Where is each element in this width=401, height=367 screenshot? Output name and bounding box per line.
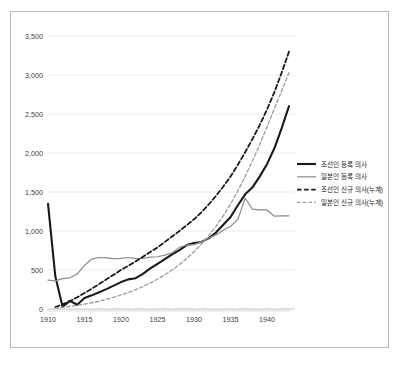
y-tick-label: 2,500 — [25, 110, 43, 119]
y-tick-label: 1,500 — [25, 188, 43, 197]
legend-label-2: 조선인 신규 의사(누계) — [321, 185, 383, 194]
y-tick-label: 500 — [31, 266, 43, 275]
figure-container: 05001,0001,5002,0002,5003,0003,500 19101… — [0, 0, 401, 367]
y-tick-label: 3,500 — [25, 32, 43, 41]
x-tick-label: 1910 — [40, 315, 56, 324]
gridlines-group — [48, 36, 295, 309]
y-axis-tick-labels: 05001,0001,5002,0002,5003,0003,500 — [25, 32, 43, 314]
y-tick-label: 2,000 — [25, 149, 43, 158]
series-line-0 — [48, 106, 289, 306]
legend-label-0: 조선인 등록 의사 — [321, 160, 367, 169]
series-line-2 — [55, 52, 289, 307]
x-tick-label: 1940 — [259, 315, 275, 324]
x-tick-label: 1935 — [223, 315, 239, 324]
x-tick-label: 1925 — [150, 315, 166, 324]
series-line-3 — [55, 73, 289, 309]
x-axis-tick-labels: 1910191519201925193019351940 — [40, 315, 275, 324]
x-tick-label: 1930 — [186, 315, 202, 324]
chart-legend: 조선인 등록 의사일본인 등록 의사조선인 신규 의사(누계)일본인 신규 의사… — [297, 160, 383, 207]
y-tick-label: 1,000 — [25, 227, 43, 236]
y-tick-label: 3,000 — [25, 71, 43, 80]
x-tick-label: 1920 — [113, 315, 129, 324]
minor-ticks-group — [48, 309, 289, 312]
legend-label-3: 일본인 신규 의사(누계) — [321, 198, 383, 207]
chart-frame: 05001,0001,5002,0002,5003,0003,500 19101… — [10, 11, 389, 348]
line-chart: 05001,0001,5002,0002,5003,0003,500 19101… — [11, 12, 388, 347]
y-tick-label: 0 — [39, 305, 43, 314]
legend-label-1: 일본인 등록 의사 — [321, 172, 367, 181]
x-tick-label: 1915 — [77, 315, 93, 324]
